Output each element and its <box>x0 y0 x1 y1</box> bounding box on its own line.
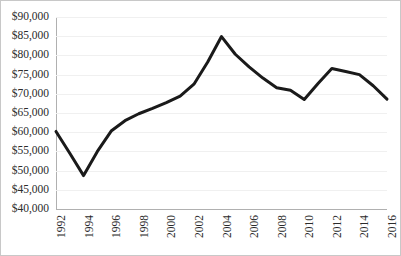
line-chart-figure: $40,000$45,000$50,000$55,000$60,000$65,0… <box>0 0 401 256</box>
y-axis-tick-label: $40,000 <box>12 203 49 215</box>
x-axis-tick-label: 1996 <box>111 215 123 238</box>
y-axis-tick-label: $45,000 <box>12 184 49 196</box>
data-series-line <box>56 17 387 209</box>
x-axis-tick-label: 1994 <box>84 215 96 238</box>
x-axis-tick-label: 1992 <box>56 215 68 238</box>
x-axis-tick-label: 2004 <box>222 215 234 238</box>
x-axis-tick-labels: 1992199419961998200020022004200620082010… <box>56 209 387 256</box>
x-axis-tick-label: 2014 <box>359 215 371 238</box>
x-axis-tick-label: 2016 <box>387 215 399 238</box>
x-axis-tick-label: 2012 <box>332 215 344 238</box>
x-axis-tick-label: 2006 <box>249 215 261 238</box>
y-axis-tick-label: $50,000 <box>12 165 49 177</box>
y-axis-tick-label: $65,000 <box>12 107 49 119</box>
y-axis-tick-label: $55,000 <box>12 146 49 158</box>
y-axis-tick-label: $85,000 <box>12 30 49 42</box>
x-axis-tick-label: 2002 <box>194 215 206 238</box>
y-axis-tick-label: $70,000 <box>12 88 49 100</box>
y-axis-tick-label: $90,000 <box>12 11 49 23</box>
y-axis-tick-label: $75,000 <box>12 69 49 81</box>
y-axis-tick-label: $80,000 <box>12 50 49 62</box>
x-axis-tick-label: 2000 <box>166 215 178 238</box>
x-axis-tick-label: 2008 <box>277 215 289 238</box>
plot-area <box>56 17 387 209</box>
y-axis-tick-label: $60,000 <box>12 126 49 138</box>
x-axis-tick-label: 1998 <box>139 215 151 238</box>
x-axis-tick-label: 2010 <box>304 215 316 238</box>
y-axis-tick-labels: $40,000$45,000$50,000$55,000$60,000$65,0… <box>1 1 53 256</box>
